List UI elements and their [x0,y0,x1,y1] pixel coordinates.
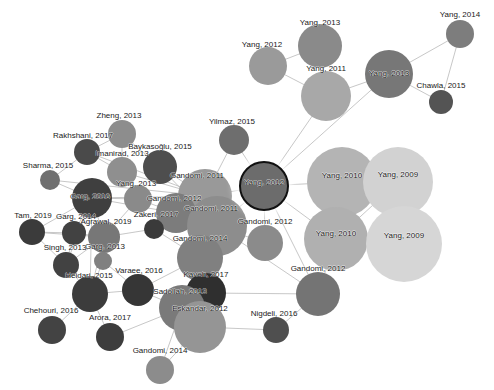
graph-node-label-baykasoglu-2015: Baykasoğlu, 2015 [128,142,192,151]
graph-node-label-kaveh-2017: Kaveh, 2017 [184,270,229,279]
graph-node-label-yang-2009-b: Yang, 2009 [384,231,424,240]
graph-node-label-nigdeli-2016: Nigdeli, 2016 [251,309,298,318]
graph-node-label-singh-2013: Singh, 2013 [44,243,87,252]
graph-node-label-sadollah-2013: Sadollah, 2013 [153,287,206,296]
graph-node-label-gandomi-2012-b: Gandomi, 2012 [238,217,293,226]
graph-node-label-varaee-2016: Varaee, 2016 [115,266,162,275]
graph-node-label-yang-2011: Yang, 2011 [306,64,346,73]
graph-node-label-chehouri-2016: Chehouri, 2016 [24,306,79,315]
network-graph-canvas: Yang, 2014Yang, 2013Yang, 2012Yang, 2011… [0,0,494,390]
graph-node-label-zakeri-2017: Zakeri, 2017 [134,210,178,219]
graph-node-label-gandomi-2014-a: Gandomi, 2014 [173,234,228,243]
graph-node-label-gandomi-2011-a: Gandomi, 2011 [170,171,224,180]
graph-node-label-yang-2010-b: Yang, 2010 [316,229,356,238]
graph-node-label-yang-2013-top: Yang, 2013 [300,18,340,27]
graph-node-label-gandomi-2011-b: Gandomi, 2011 [184,204,238,213]
label-layer: Yang, 2014Yang, 2013Yang, 2012Yang, 2011… [0,0,494,390]
graph-node-label-agrawal-2019: Agrawal, 2019 [80,217,131,226]
graph-node-label-yang-2013-mid: Yang, 2013 [369,69,409,78]
graph-node-label-yang-2009-a: Yang, 2009 [378,170,418,179]
graph-node-label-yang-2013-left: Yang, 2013 [116,179,156,188]
graph-node-label-sharma-2015: Sharma, 2015 [23,161,73,170]
graph-node-label-yang-2014: Yang, 2014 [440,10,480,19]
graph-node-label-rakhshani-2017: Rakhshani, 2017 [53,131,113,140]
graph-node-label-yang-2010-a: Yang, 2010 [322,171,362,180]
graph-node-label-garg-2013: Garg, 2013 [85,242,125,251]
graph-node-label-gandomi-2012-a: Gandomi, 2012 [147,194,202,203]
graph-node-label-eskandar-2012: Eskandar, 2012 [172,304,228,313]
graph-node-label-chawla-2015: Chawla, 2015 [417,81,466,90]
graph-node-label-garg-2016: Garg, 2016 [70,192,110,201]
graph-node-label-yang-2012-left: Yang, 2012 [242,40,282,49]
graph-node-label-yilmaz-2015: Yilmaz, 2015 [209,117,255,126]
graph-node-label-heidari-2015: Heidari, 2015 [65,271,113,280]
graph-node-label-zheng-2013: Zheng, 2013 [97,111,142,120]
graph-node-label-gandomi-2012-c: Gandomi, 2012 [291,264,346,273]
graph-node-label-yang-2012-center: Yang, 2012 [244,178,284,187]
graph-node-label-tam-2019: Tam, 2019 [14,211,51,220]
graph-node-label-gandomi-2014-b: Gandomi, 2014 [133,346,188,355]
graph-node-label-arora-2017: Arora, 2017 [89,313,131,322]
